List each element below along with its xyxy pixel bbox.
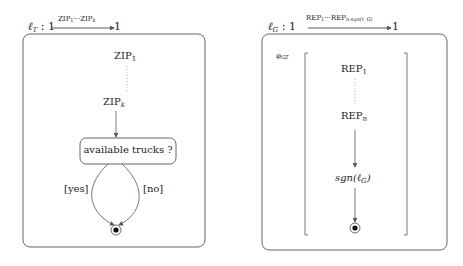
- guard-label: φGZ: [276, 52, 288, 60]
- sgn-close: ): [367, 172, 371, 183]
- left-title-end: 1: [114, 20, 121, 33]
- rep-last-node: REPn: [341, 110, 367, 123]
- guard-sub: GZ: [281, 54, 288, 60]
- right-final-node-dot: [352, 225, 357, 230]
- zip-last-text: ZIP: [103, 96, 121, 107]
- zip-last-sub: k: [121, 101, 125, 109]
- right-bracket: [404, 53, 407, 235]
- rep-first-text: REP: [341, 63, 363, 74]
- left-arrow-label: ZIP1···ZIPk: [58, 15, 96, 23]
- right-title-end: 1: [392, 20, 399, 33]
- left-arrow-label-b: ZIP: [80, 15, 92, 23]
- left-arrow-label-b-sub: k: [93, 17, 96, 23]
- diagram-canvas: [0, 0, 463, 266]
- left-title: ℓT : 1: [28, 20, 55, 34]
- left-bracket: [305, 53, 308, 235]
- rep-last-sub: n: [363, 115, 368, 123]
- right-arrow-label: REP1···REPn·sgn(ℓ_G): [306, 14, 372, 22]
- zip-first-text: ZIP: [114, 50, 132, 61]
- decision-label: available trucks ?: [80, 144, 176, 155]
- no-branch: [119, 164, 139, 225]
- left-title-sep: : 1: [37, 20, 55, 33]
- left-arrow-label-a: ZIP: [58, 15, 70, 23]
- right-arrow-label-a: REP: [306, 14, 321, 22]
- zip-last-node: ZIPk: [103, 96, 125, 109]
- rep-first-sub: 1: [363, 68, 367, 76]
- right-arrow-label-b-sub: n·sgn(ℓ_G): [346, 16, 372, 22]
- left-final-node-dot: [113, 227, 118, 232]
- zip-first-sub: 1: [132, 55, 136, 63]
- rep-first-node: REP1: [341, 63, 367, 76]
- right-arrow-label-mid: ···: [324, 14, 331, 22]
- right-arrow-label-b: REP: [331, 14, 346, 22]
- yes-branch: [92, 164, 114, 225]
- sgn-text: sgn(ℓ: [335, 172, 361, 183]
- sgn-node: sgn(ℓG): [335, 172, 371, 185]
- yes-label: [yes]: [64, 183, 89, 194]
- right-title: ℓG : 1: [268, 20, 296, 34]
- right-title-sep: : 1: [278, 20, 296, 33]
- no-label: [no]: [143, 183, 163, 194]
- zip-first-node: ZIP1: [114, 50, 136, 63]
- rep-last-text: REP: [341, 110, 363, 121]
